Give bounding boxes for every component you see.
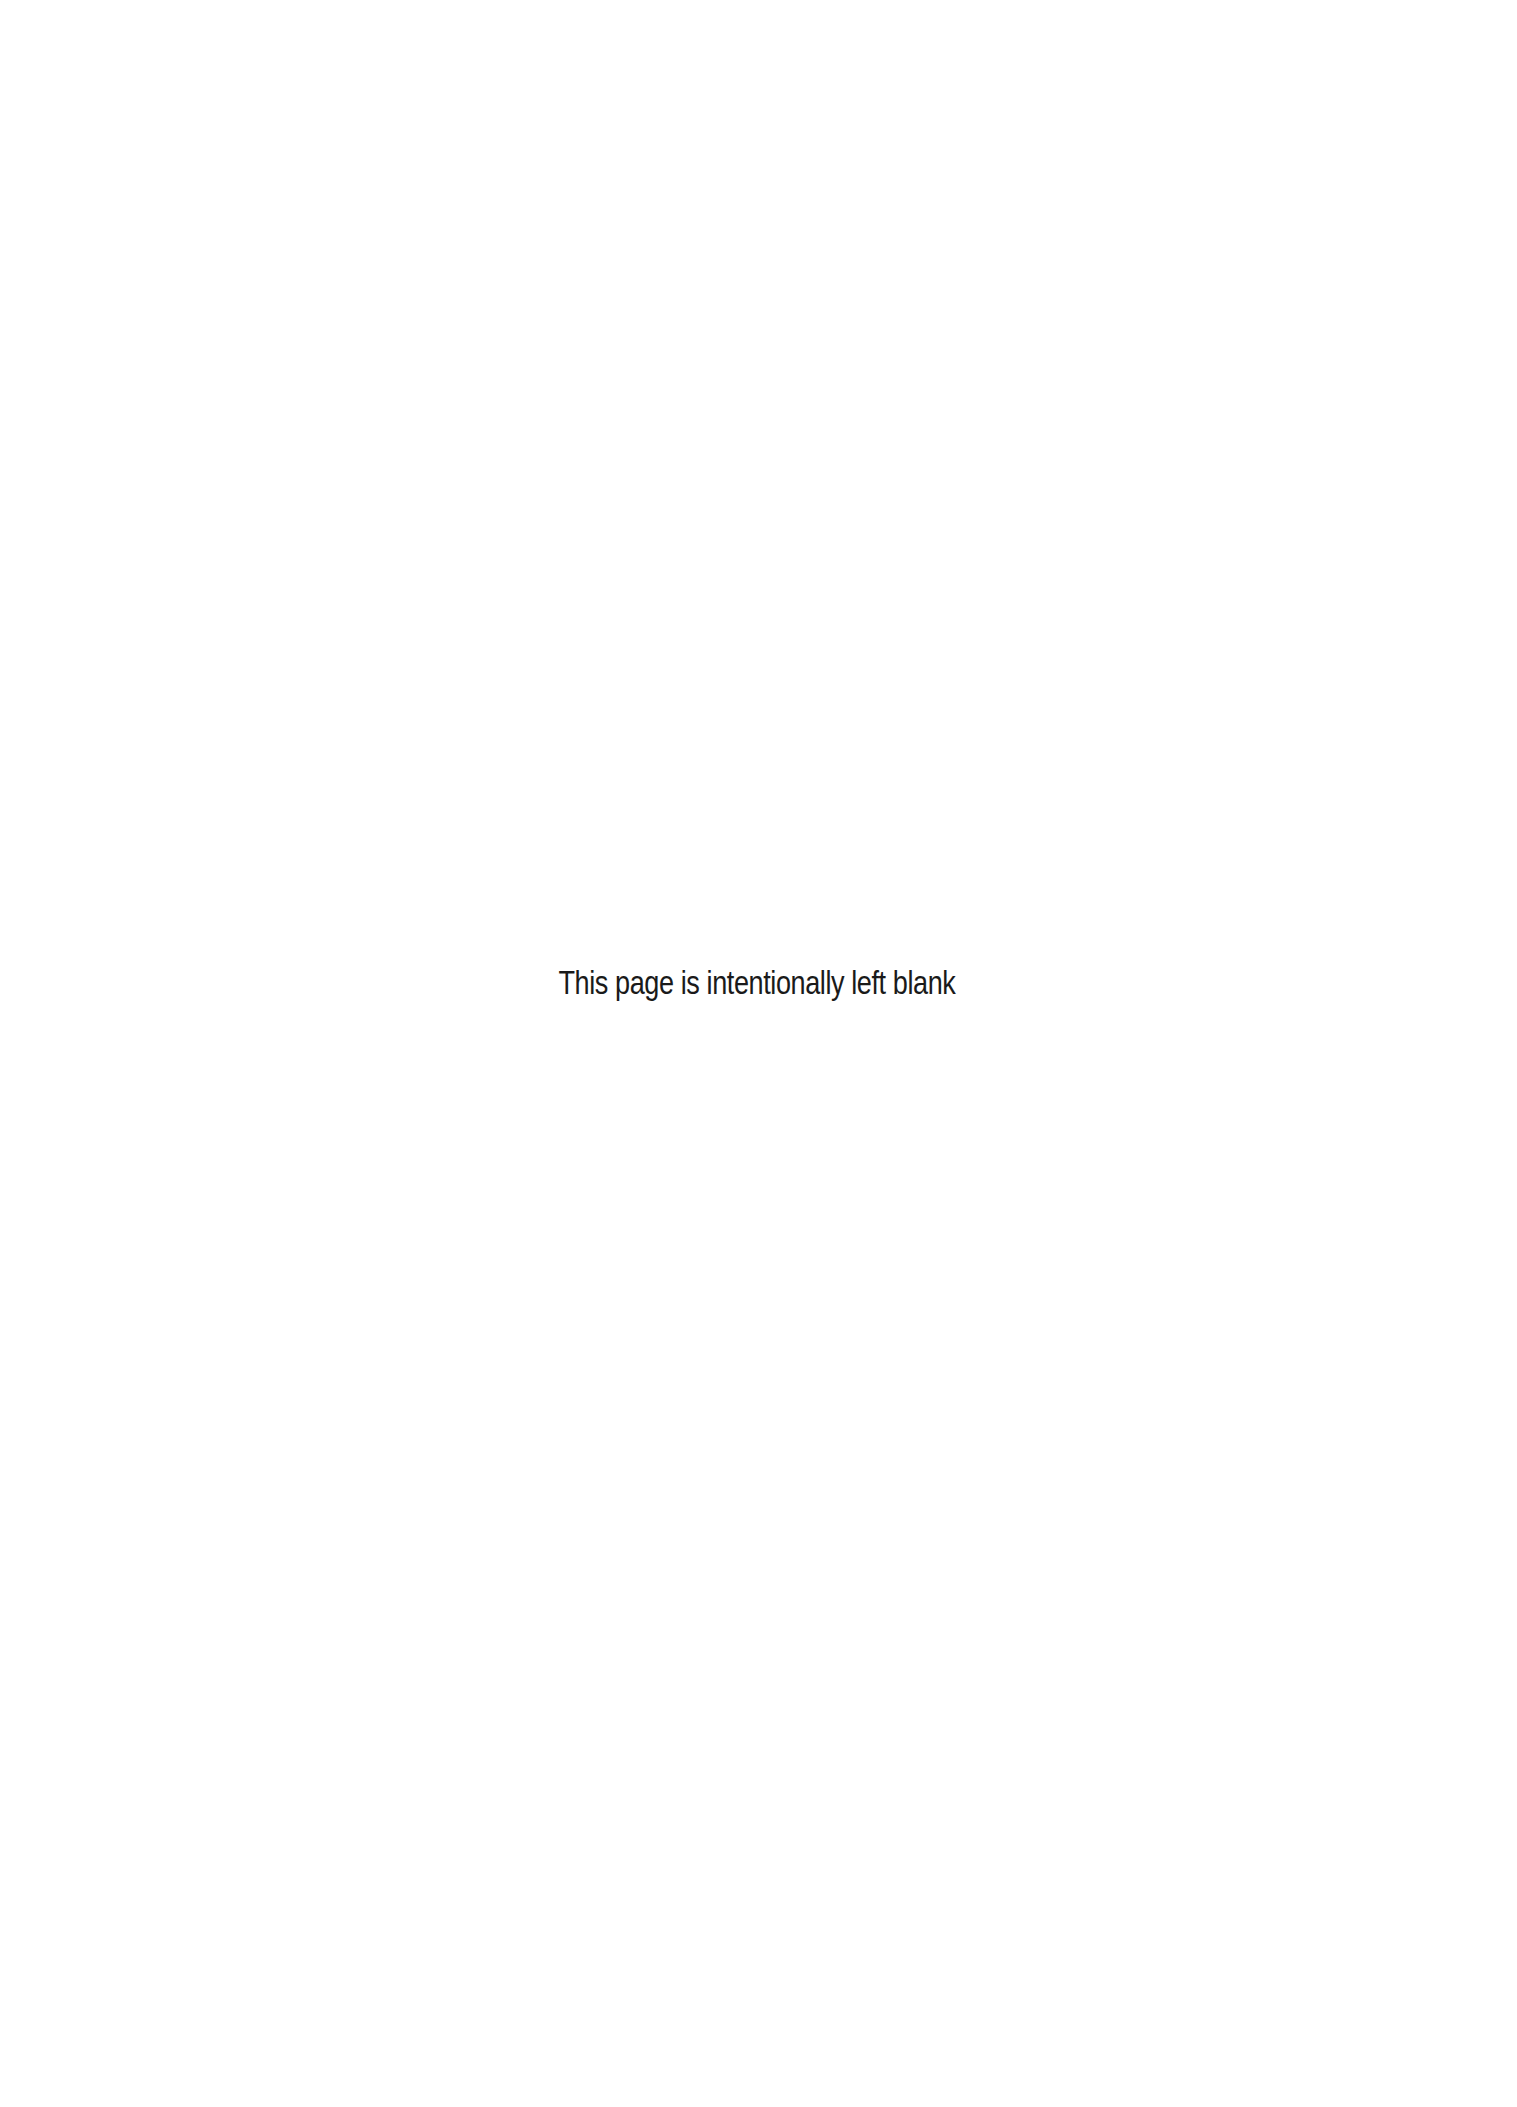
blank-page-notice: This page is intentionally left blank [135, 966, 1379, 999]
blank-page: This page is intentionally left blank [0, 0, 1517, 2107]
